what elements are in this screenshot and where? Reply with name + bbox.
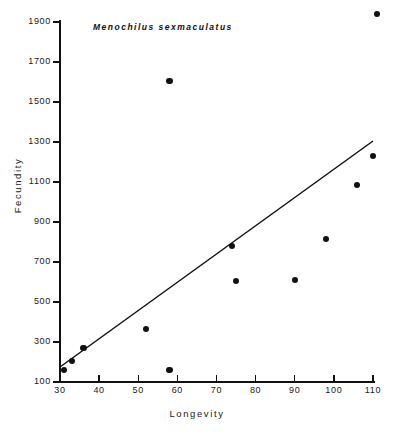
data-point <box>61 367 67 373</box>
x-axis-tick-label: 70 <box>197 385 237 395</box>
y-axis-tick <box>53 261 60 262</box>
x-axis-tick <box>216 375 217 382</box>
x-axis-tick-label: 90 <box>275 385 315 395</box>
y-axis-tick-label: 1900 <box>5 16 51 26</box>
x-axis-tick-label: 80 <box>236 385 276 395</box>
y-axis-tick <box>53 341 60 342</box>
x-axis-tick <box>294 375 295 382</box>
data-point <box>166 367 172 373</box>
x-axis-tick-label: 30 <box>40 385 80 395</box>
y-axis-tick-label: 1500 <box>5 96 51 106</box>
y-axis-title: Fecundity <box>12 141 23 231</box>
x-axis-tick-label: 110 <box>353 385 393 395</box>
data-point <box>229 243 235 249</box>
data-point <box>292 277 298 283</box>
data-point <box>80 345 86 351</box>
data-point <box>166 78 172 84</box>
chart-title: Menochilus sexmaculatus <box>93 22 233 32</box>
y-axis-tick-label: 1700 <box>5 56 51 66</box>
data-point <box>370 153 376 159</box>
x-axis-tick-label: 40 <box>79 385 119 395</box>
y-axis-tick <box>53 301 60 302</box>
x-axis-tick-label: 100 <box>314 385 354 395</box>
y-axis-tick <box>53 181 60 182</box>
x-axis-tick <box>255 375 256 382</box>
y-axis-tick <box>53 21 60 22</box>
x-axis-tick <box>98 375 99 382</box>
x-axis-tick-label: 60 <box>157 385 197 395</box>
y-axis-tick <box>53 221 60 222</box>
data-point <box>323 236 329 242</box>
x-axis-tick <box>372 375 373 382</box>
x-axis-tick-label: 50 <box>118 385 158 395</box>
data-point <box>143 326 149 332</box>
data-point <box>374 11 380 17</box>
data-point <box>69 358 75 364</box>
scatter-plot-figure: Menochilus sexmaculatus 1003005007009001… <box>0 0 394 434</box>
y-axis-tick <box>53 61 60 62</box>
x-axis-tick <box>59 375 60 382</box>
x-axis-tick <box>333 375 334 382</box>
y-axis-line <box>59 20 61 383</box>
y-axis-tick-label: 700 <box>5 256 51 266</box>
data-point <box>354 182 360 188</box>
data-point <box>233 278 239 284</box>
x-axis-title: Longevity <box>0 408 394 419</box>
y-axis-tick-label: 500 <box>5 296 51 306</box>
x-axis-tick <box>177 375 178 382</box>
y-axis-tick <box>53 101 60 102</box>
x-axis-tick <box>138 375 139 382</box>
y-axis-tick-label: 300 <box>5 336 51 346</box>
y-axis-tick <box>53 141 60 142</box>
